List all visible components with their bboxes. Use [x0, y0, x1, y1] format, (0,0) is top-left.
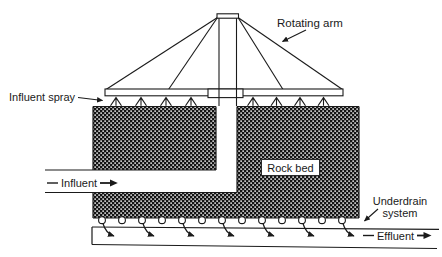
underdrain-opening [99, 217, 106, 224]
rock-bed-label: Rock bed [261, 159, 320, 176]
spray-nozzle-icon [318, 98, 329, 106]
mast-cap [217, 14, 239, 18]
trickling-filter-diagram: Rotating arm Influent spray Influent Roc… [0, 0, 442, 257]
rotating-arm-label: Rotating arm [277, 17, 343, 29]
effluent-label: Effluent [377, 230, 414, 242]
effluent-arrow-icon [417, 232, 432, 239]
underdrain-opening [299, 217, 306, 224]
spray-nozzle-icon [295, 98, 306, 106]
guy-cable [106, 18, 218, 90]
spray-nozzle-icon [136, 98, 147, 106]
underdrain-opening [219, 217, 226, 224]
spray-nozzle-icon [111, 98, 122, 106]
influent-spray-label: Influent spray [9, 91, 75, 103]
underdrain-opening [259, 217, 266, 224]
spray-nozzles [111, 98, 330, 106]
underdrain-opening [179, 217, 186, 224]
drain-flow-arrow-icon [143, 224, 154, 237]
underdrain-opening [239, 217, 246, 224]
drain-flow-arrow-icon [103, 224, 114, 237]
underdrain-system-label: Underdrain system [369, 196, 431, 219]
rotating-arm-arrow [283, 30, 307, 42]
drain-flow-arrow-icon [223, 224, 234, 237]
underdrain-opening [279, 217, 286, 224]
underdrain-opening [319, 217, 326, 224]
spray-nozzle-icon [161, 98, 172, 106]
drain-flow-arrow-icon [263, 224, 274, 237]
underdrain-opening [339, 217, 346, 224]
distributor-hub [208, 89, 243, 98]
drain-flow-arrows [103, 224, 354, 237]
influent-spray-arrow [78, 98, 103, 101]
spray-nozzle-icon [248, 98, 259, 106]
underdrain-opening [119, 217, 126, 224]
drain-flow-arrow-icon [343, 224, 354, 237]
underdrain-opening [159, 217, 166, 224]
spray-nozzle-icon [271, 98, 282, 106]
drain-flow-arrow-icon [183, 224, 194, 237]
spray-nozzle-icon [186, 98, 197, 106]
influent-label: Influent [61, 177, 97, 189]
guy-cable [169, 18, 218, 90]
underdrain-opening [199, 217, 206, 224]
underdrain-opening [139, 217, 146, 224]
drain-flow-arrow-icon [303, 224, 314, 237]
